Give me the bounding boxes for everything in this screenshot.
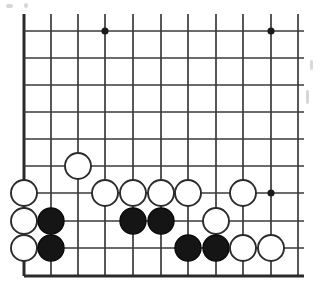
black-stone-B3[interactable] [148,208,174,234]
black-stone-B6[interactable] [203,235,229,261]
white-stone-W1[interactable] [65,153,91,179]
black-stone-B5[interactable] [175,235,201,261]
star-point-3 [267,189,274,196]
star-point-1 [101,27,108,34]
black-stone-B1[interactable] [38,208,64,234]
white-stone-W2[interactable] [11,180,37,206]
white-stone-W5[interactable] [148,180,174,206]
white-stone-W9[interactable] [203,208,229,234]
white-stone-W12[interactable] [258,235,284,261]
go-board-figure [0,0,321,287]
scan-speck-3 [306,90,309,104]
go-board-canvas[interactable] [0,0,321,287]
grid-lines [24,14,304,276]
black-stone-B4[interactable] [38,235,64,261]
scan-speck-2 [24,3,28,8]
star-point-2 [267,27,274,34]
white-stone-W8[interactable] [11,208,37,234]
scan-speck-1 [6,4,13,8]
black-stone-B2[interactable] [120,208,146,234]
scan-artifacts [6,3,313,104]
scan-speck-4 [310,60,313,70]
white-stone-W6[interactable] [175,180,201,206]
white-stone-W11[interactable] [230,235,256,261]
white-stone-W7[interactable] [230,180,256,206]
white-stone-W10[interactable] [11,235,37,261]
white-stone-W3[interactable] [92,180,118,206]
white-stone-W4[interactable] [120,180,146,206]
